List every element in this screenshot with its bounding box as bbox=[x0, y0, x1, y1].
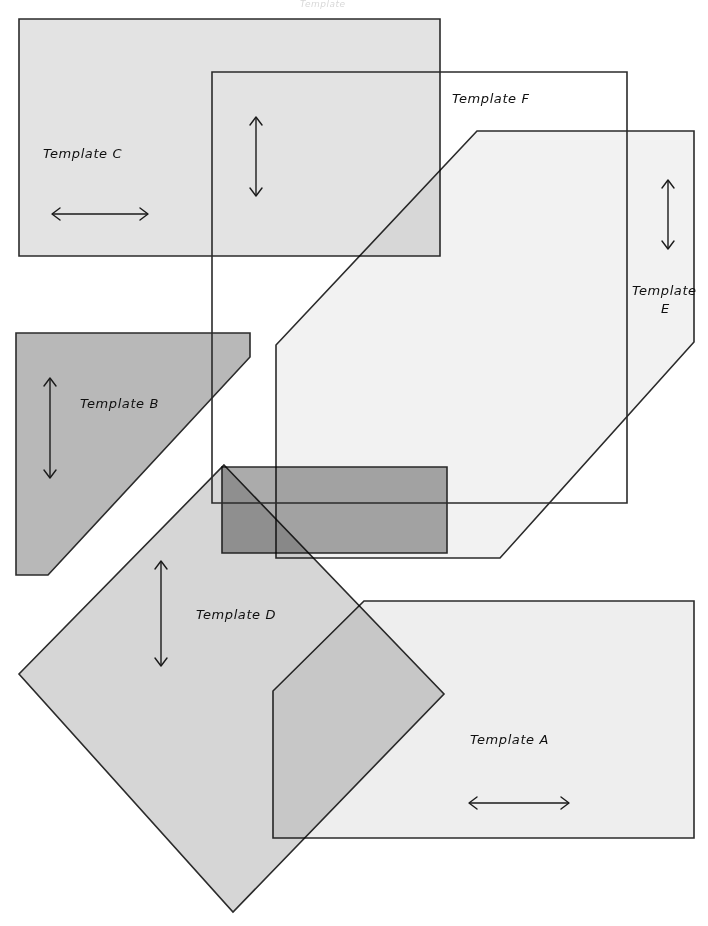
label-template-b: Template B bbox=[80, 396, 159, 411]
template-overlay-diagram: Template Template A Template B Template … bbox=[0, 0, 708, 926]
diagram-canvas: Template Template A Template B Template … bbox=[0, 0, 708, 926]
label-template-c: Template C bbox=[43, 146, 122, 161]
label-template-d: Template D bbox=[196, 607, 276, 622]
label-template-e: Template bbox=[632, 283, 697, 298]
shape-template-c[interactable] bbox=[19, 19, 440, 256]
shape-overlap-band[interactable] bbox=[222, 467, 447, 553]
label-template-a: Template A bbox=[470, 732, 549, 747]
label-template-e-sub: E bbox=[661, 301, 670, 316]
page-title-faint: Template bbox=[300, 0, 345, 9]
label-template-f: Template F bbox=[452, 91, 530, 106]
